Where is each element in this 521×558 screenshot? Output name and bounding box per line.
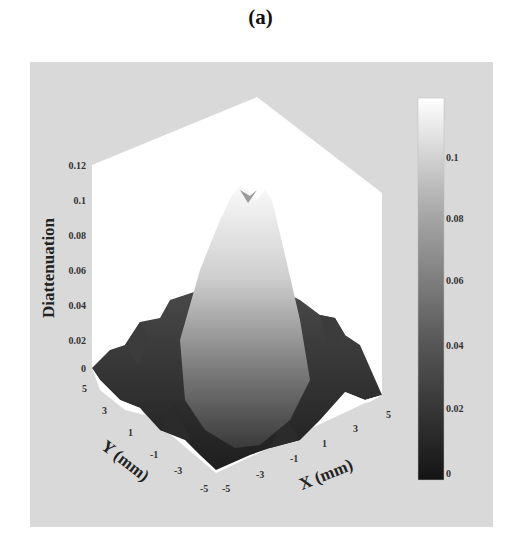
y-tick: 1 — [128, 427, 133, 438]
x-tick: 1 — [322, 438, 327, 449]
z-tick: 0.08 — [69, 230, 87, 241]
x-axis-label: X (mm) — [296, 455, 355, 494]
x-tick: -5 — [222, 483, 230, 494]
x-tick: 5 — [386, 409, 391, 420]
colorbar-tick: 0.1 — [446, 152, 459, 163]
z-axis: 0.12 0.1 0.08 0.06 0.04 0.02 0 Diattenua… — [39, 160, 86, 374]
y-tick: -1 — [150, 449, 158, 460]
y-tick: 3 — [102, 405, 107, 416]
y-tick: -5 — [200, 483, 208, 494]
z-tick: 0.02 — [69, 335, 87, 346]
z-tick: 0.06 — [69, 265, 87, 276]
z-tick: 0.04 — [69, 300, 87, 311]
colorbar-tick: 0.08 — [446, 213, 464, 224]
z-axis-label: Diattenuation — [39, 217, 58, 318]
z-tick: 0.1 — [74, 195, 87, 206]
z-tick: 0 — [81, 363, 86, 374]
y-tick: 5 — [82, 383, 87, 394]
colorbar-tick: 0.06 — [446, 275, 464, 286]
colorbar: 0.1 0.08 0.06 0.04 0.02 0 — [418, 98, 464, 480]
colorbar-tick: 0.02 — [446, 403, 464, 414]
x-tick: -1 — [290, 453, 298, 464]
y-axis-label: Y (mm) — [98, 436, 153, 485]
z-tick: 0.12 — [69, 160, 87, 171]
y-tick: -3 — [174, 465, 182, 476]
colorbar-tick: 0.04 — [446, 340, 464, 351]
x-tick: 3 — [353, 423, 358, 434]
colorbar-tick: 0 — [446, 468, 451, 479]
x-tick: -3 — [256, 469, 264, 480]
surface-plot: 0.12 0.1 0.08 0.06 0.04 0.02 0 Diattenua… — [0, 0, 521, 558]
